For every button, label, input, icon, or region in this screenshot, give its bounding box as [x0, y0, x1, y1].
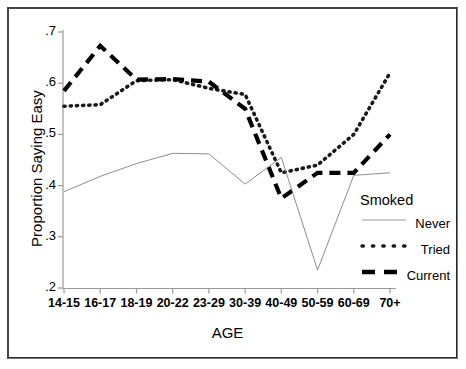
y-tick-label: .5: [26, 125, 56, 140]
legend-entry-label: Current: [407, 268, 450, 283]
series-layer: [64, 46, 390, 270]
y-tick-label: .7: [26, 23, 56, 38]
legend-entries: NeverTriedCurrent: [356, 208, 452, 286]
y-tick-label: .6: [26, 74, 56, 89]
x-axis-title: AGE: [64, 324, 391, 341]
legend-entry: Never: [356, 208, 452, 234]
y-tick-label: .2: [26, 279, 56, 294]
legend-entry: Tried: [356, 234, 452, 260]
legend-entry-label: Never: [415, 216, 450, 231]
x-tick-label: 70+: [367, 296, 413, 310]
chart-legend: Smoked NeverTriedCurrent: [356, 192, 452, 286]
legend-entry: Current: [356, 260, 452, 286]
legend-entry-label: Tried: [421, 242, 450, 257]
x-axis-ticks: [64, 289, 390, 294]
solid-thin-line-swatch: [360, 210, 418, 218]
dotted-line-swatch: [360, 236, 418, 244]
series-line-never: [64, 73, 390, 173]
plot-area: Proportion Saying Easy AGE .2.3.4.5.6.7 …: [0, 0, 466, 369]
series-line-tried: [64, 46, 390, 199]
chart-canvas: [0, 0, 466, 369]
chart-figure: Proportion Saying Easy AGE .2.3.4.5.6.7 …: [0, 0, 466, 369]
y-tick-label: .4: [26, 177, 56, 192]
series-line-current: [64, 153, 390, 270]
y-tick-label: .3: [26, 228, 56, 243]
legend-title: Smoked: [356, 192, 452, 208]
y-axis-ticks: [58, 32, 63, 288]
